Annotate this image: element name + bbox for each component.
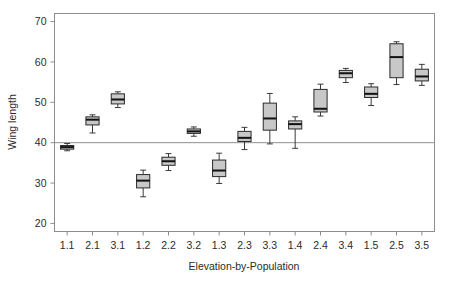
boxplot-2-5 bbox=[390, 42, 403, 85]
y-tick-label: 20 bbox=[35, 217, 47, 229]
x-tick-label-2-2: 2.2 bbox=[161, 239, 176, 251]
box-iqr bbox=[365, 87, 378, 97]
y-tick-label: 50 bbox=[35, 96, 47, 108]
x-tick-label-3-2: 3.2 bbox=[187, 239, 202, 251]
x-tick-label-2-4: 2.4 bbox=[313, 239, 328, 251]
box-iqr bbox=[213, 160, 226, 177]
y-tick-label: 40 bbox=[35, 136, 47, 148]
x-tick-label-3-4: 3.4 bbox=[339, 239, 354, 251]
boxplot-2-4 bbox=[314, 84, 327, 116]
x-tick-label-3-1: 3.1 bbox=[111, 239, 126, 251]
x-tick-label-1-1: 1.1 bbox=[60, 239, 75, 251]
x-tick-label-3-3: 3.3 bbox=[263, 239, 278, 251]
boxplot-figure: 203040506070 1.12.13.11.22.23.21.32.33.3… bbox=[0, 0, 449, 284]
box-iqr bbox=[238, 131, 251, 141]
box-iqr bbox=[415, 69, 428, 81]
box-iqr bbox=[390, 44, 403, 78]
y-tick-label: 30 bbox=[35, 177, 47, 189]
box-iqr bbox=[86, 117, 99, 125]
x-tick-label-1-2: 1.2 bbox=[136, 239, 151, 251]
x-tick-label-2-5: 2.5 bbox=[389, 239, 404, 251]
box-iqr bbox=[263, 103, 276, 130]
x-axis-title: Elevation-by-Population bbox=[189, 260, 300, 272]
y-tick-label: 60 bbox=[35, 56, 47, 68]
x-tick-label-1-5: 1.5 bbox=[364, 239, 379, 251]
x-tick-label-3-5: 3.5 bbox=[415, 239, 430, 251]
x-tick-label-2-3: 2.3 bbox=[237, 239, 252, 251]
chart-canvas: 203040506070 1.12.13.11.22.23.21.32.33.3… bbox=[0, 0, 449, 284]
x-tick-label-2-1: 2.1 bbox=[85, 239, 100, 251]
x-axis-tick-labels: 1.12.13.11.22.23.21.32.33.31.42.43.41.52… bbox=[60, 239, 429, 251]
x-tick-label-1-3: 1.3 bbox=[212, 239, 227, 251]
y-tick-label: 70 bbox=[35, 15, 47, 27]
y-axis-title: Wing length bbox=[6, 94, 18, 150]
x-tick-label-1-4: 1.4 bbox=[288, 239, 303, 251]
